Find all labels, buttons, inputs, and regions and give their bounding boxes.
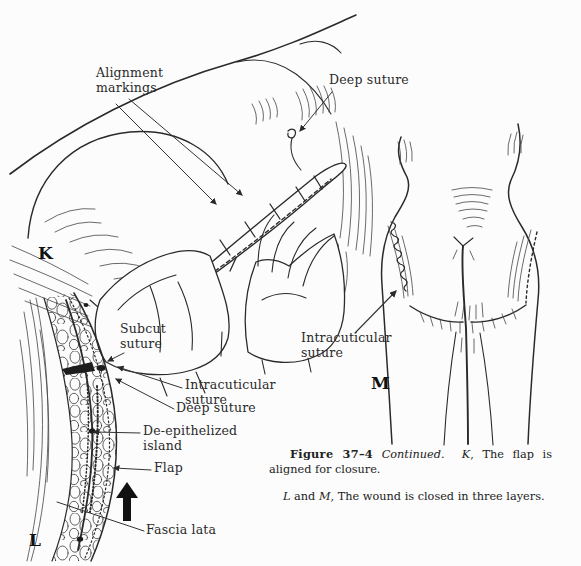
caption-k-ref: K (462, 448, 470, 461)
figure-caption: Figure 37–4 Continued. K, The flap is al… (269, 447, 552, 505)
alignment-markings-label: Alignment markings (96, 66, 176, 95)
up-arrow (116, 482, 138, 521)
caption-l-ref: L (283, 490, 291, 503)
subcut-suture-label: Subcut suture (120, 322, 178, 351)
panel-k-letter: K (38, 243, 53, 263)
fascia-lata-label: Fascia lata (146, 523, 216, 538)
caption-paragraph-1: Figure 37–4 Continued. K, The flap is al… (269, 447, 552, 478)
caption-and: and (294, 490, 315, 503)
deep-suture-l-label: Deep suture (176, 401, 256, 416)
panel-l-letter: L (29, 530, 41, 550)
caption-lm-text: , The wound is closed in three layers. (331, 490, 545, 503)
scanned-figure-page: Alignment markings Deep suture K Subcut … (0, 0, 581, 566)
panel-m-drawing (355, 124, 539, 445)
caption-continued: Continued. (382, 448, 445, 461)
caption-figure-number: Figure 37–4 (290, 447, 373, 461)
caption-m-ref: M (319, 490, 331, 503)
caption-paragraph-2: L and M, The wound is closed in three la… (269, 490, 552, 505)
deep-suture-k-label: Deep suture (329, 73, 409, 88)
flap-label: Flap (154, 461, 183, 476)
panel-m-letter: M (371, 373, 390, 393)
intracuticular-suture-m-label: Intracuticular suture (301, 331, 397, 360)
de-epithelized-island-label: De-epithelized island (143, 424, 247, 453)
